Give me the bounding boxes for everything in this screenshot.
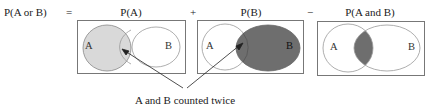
venn-diagram: P(A or B) = + − P(A) A B P(B) A B P(A an… (0, 0, 439, 110)
panel-p-b: P(B) A B (198, 6, 304, 74)
set-b-ellipse (132, 27, 180, 67)
lhs-label: P(A or B) (4, 6, 47, 19)
equals-sign: = (66, 6, 72, 18)
panel-title: P(B) (241, 6, 262, 19)
panel-p-a: P(A) A B (78, 6, 186, 74)
panel-title: P(A and B) (345, 6, 395, 19)
set-b-label: B (408, 41, 415, 52)
panel-p-a-and-b: P(A and B) A B (318, 6, 425, 76)
plus-sign: + (190, 6, 196, 18)
panel-title: P(A) (120, 6, 142, 19)
minus-sign: − (307, 6, 313, 18)
set-b-label: B (165, 40, 172, 51)
set-b-label: B (286, 40, 293, 51)
annotation-label: A and B counted twice (135, 94, 235, 106)
set-a-label: A (206, 40, 214, 51)
set-a-label: A (330, 41, 338, 52)
set-a-label: A (85, 40, 93, 51)
